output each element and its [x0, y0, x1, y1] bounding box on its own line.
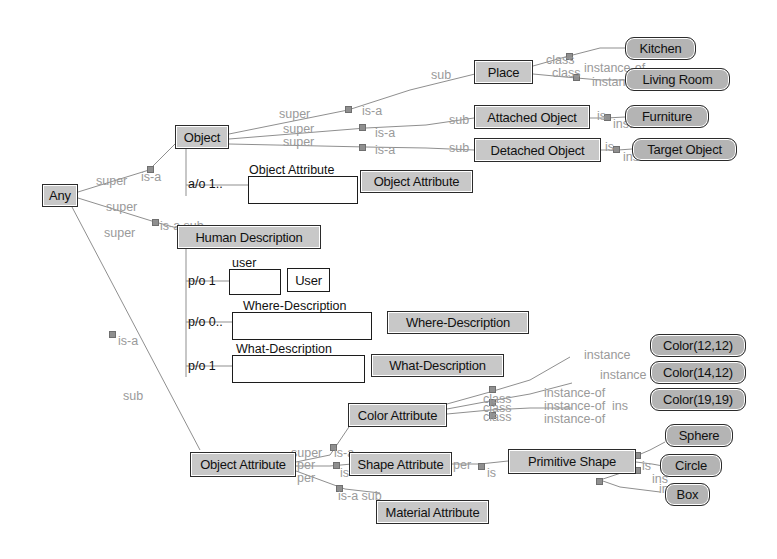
instance-sphere[interactable]: Sphere: [665, 424, 733, 447]
edge-handle: [566, 53, 573, 60]
node-label: Place: [488, 65, 520, 80]
node-label: Detached Object: [491, 143, 585, 158]
slot-cardinality-object-attribute: a/o 1..: [188, 177, 223, 191]
node-label: Color(14,12): [663, 365, 733, 380]
edge-label: instance: [600, 368, 647, 382]
edge-label: class: [483, 410, 511, 424]
node-object-attribute-bottom[interactable]: Object Attribute: [190, 452, 296, 477]
edge-handle: [109, 331, 116, 338]
edge-handle: [604, 114, 611, 121]
edge-handle: [345, 106, 352, 113]
node-primitive-shape[interactable]: Primitive Shape: [508, 449, 636, 474]
diagram-canvas: superis-asupersuperis-a subis-asubsupers…: [0, 0, 777, 559]
node-shape-attribute[interactable]: Shape Attribute: [349, 452, 452, 476]
node-where-description[interactable]: Where-Description: [387, 311, 529, 334]
slot-caption-what-description: What-Description: [236, 342, 332, 356]
slot-caption-user: user: [232, 256, 256, 270]
edge-handle: [596, 478, 603, 485]
instance-target-object[interactable]: Target Object: [632, 138, 737, 161]
edge-handle: [613, 146, 620, 153]
instance-living-room[interactable]: Living Room: [625, 68, 730, 91]
instance-color-12-12[interactable]: Color(12,12): [650, 334, 746, 357]
node-any[interactable]: Any: [42, 184, 78, 207]
node-label: Primitive Shape: [528, 454, 616, 469]
edge-handle: [359, 124, 366, 131]
node-label: Kitchen: [640, 41, 682, 56]
edge-handle: [333, 462, 340, 469]
node-what-description[interactable]: What-Description: [371, 354, 504, 377]
edge-label: is: [487, 466, 496, 480]
edge-label: ins: [612, 399, 628, 413]
instance-furniture[interactable]: Furniture: [625, 105, 709, 128]
edge-label: per: [297, 458, 315, 472]
edge-label: per: [297, 471, 315, 485]
node-label: Object: [184, 130, 220, 145]
instance-box[interactable]: Box: [665, 483, 710, 506]
edge-label: per: [453, 458, 471, 472]
edge-label: sub: [431, 68, 451, 82]
slot-caption-object-attribute: Object Attribute: [249, 163, 334, 177]
slot-box-object-attribute[interactable]: [248, 176, 358, 204]
edge-label: instance-of: [544, 386, 605, 400]
edge-label: is: [340, 466, 349, 480]
node-user[interactable]: User: [287, 268, 330, 292]
node-place[interactable]: Place: [474, 60, 533, 84]
node-label: Any: [49, 188, 71, 203]
node-label: Furniture: [642, 109, 692, 124]
node-label: Human Description: [195, 230, 302, 245]
edge-label: is-a: [375, 126, 395, 140]
node-detached-object[interactable]: Detached Object: [474, 138, 601, 162]
edge-handle: [478, 463, 485, 470]
edge-label: super: [279, 107, 310, 121]
node-label: Target Object: [647, 142, 722, 157]
edge-handle: [489, 386, 496, 393]
edge-handle: [330, 444, 337, 451]
node-attached-object[interactable]: Attached Object: [474, 105, 590, 129]
node-label: Shape Attribute: [358, 457, 444, 472]
slot-box-what-description[interactable]: [232, 355, 365, 383]
edge-handle: [336, 485, 343, 492]
edge-label: is: [642, 459, 651, 473]
edge-label: sub: [449, 113, 469, 127]
node-label: Attached Object: [487, 110, 577, 125]
edge-label: instance-of: [544, 399, 605, 413]
instance-color-14-12[interactable]: Color(14,12): [650, 361, 746, 384]
slot-cardinality-user: p/o 1: [188, 274, 216, 288]
slot-cardinality-what-description: p/o 1: [188, 359, 216, 373]
slot-box-where-description[interactable]: [232, 312, 372, 340]
edge-label: is-a: [375, 143, 395, 157]
node-object-attribute-top[interactable]: Object Attribute: [360, 170, 473, 193]
node-object[interactable]: Object: [175, 125, 229, 149]
edge-handle: [489, 399, 496, 406]
instance-circle[interactable]: Circle: [660, 454, 722, 477]
node-label: Color(19,19): [663, 392, 733, 407]
node-label: User: [295, 273, 322, 288]
edge-label: super: [283, 135, 314, 149]
node-label: Sphere: [679, 428, 720, 443]
node-label: Living Room: [642, 72, 712, 87]
node-label: Where-Description: [406, 315, 510, 330]
edge-label: class: [483, 401, 511, 415]
instance-color-19-19[interactable]: Color(19,19): [650, 388, 746, 411]
slot-box-user[interactable]: [229, 269, 281, 295]
edge-label: super: [104, 226, 135, 240]
edge-label: sub: [123, 389, 143, 403]
edge-label: super: [96, 174, 127, 188]
node-label: Object Attribute: [374, 174, 460, 189]
node-label: Circle: [675, 458, 707, 473]
node-label: Color Attribute: [358, 408, 437, 423]
edge-label: class: [483, 392, 511, 406]
instance-kitchen[interactable]: Kitchen: [625, 37, 696, 60]
edge-handle: [489, 412, 496, 419]
edge-label: is-a: [362, 104, 382, 118]
edge-label: sub: [449, 141, 469, 155]
edge-handle: [152, 219, 159, 226]
edge-handle: [147, 166, 154, 173]
node-human-description[interactable]: Human Description: [177, 225, 321, 249]
node-color-attribute[interactable]: Color Attribute: [348, 403, 447, 427]
edge-handle: [573, 74, 580, 81]
slot-caption-where-description: Where-Description: [243, 299, 347, 313]
node-material-attribute[interactable]: Material Attribute: [376, 500, 489, 524]
node-label: Box: [677, 487, 699, 502]
node-label: Material Attribute: [386, 505, 480, 520]
